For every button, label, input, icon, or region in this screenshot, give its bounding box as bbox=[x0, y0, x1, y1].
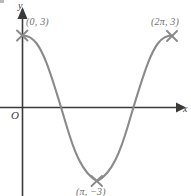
cosine-curve-plot bbox=[0, 0, 191, 196]
origin-label: O bbox=[11, 110, 19, 121]
marker-minimum bbox=[92, 176, 103, 186]
point-label-maximum-right: (2π, 3) bbox=[151, 17, 179, 27]
y-axis-label: y bbox=[18, 1, 22, 11]
point-label-minimum: (π, −3) bbox=[76, 187, 106, 196]
point-label-maximum-left: (0, 3) bbox=[26, 17, 49, 27]
graph-figure: y x O (0, 3) (2π, 3) (π, −3) bbox=[0, 0, 191, 196]
x-axis-label: x bbox=[183, 104, 187, 114]
